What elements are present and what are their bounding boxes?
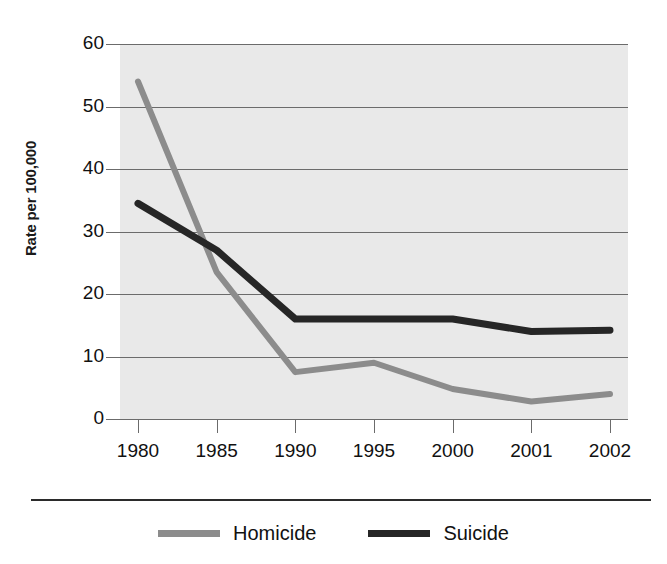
x-tick-mark-1995: [374, 420, 375, 433]
gridline-y-50: [120, 107, 628, 108]
y-tick-mark-30: [106, 232, 120, 233]
gridline-y-20: [120, 294, 628, 295]
y-tick-mark-0: [106, 419, 120, 420]
y-tick-label-50: 50: [60, 95, 104, 117]
x-tick-mark-2002: [610, 420, 611, 433]
x-tick-label-2002: 2002: [575, 440, 645, 462]
gridline-y-30: [120, 232, 628, 233]
legend-label-homicide: Homicide: [233, 522, 316, 545]
y-tick-mark-10: [106, 357, 120, 358]
gridline-y-60: [120, 44, 628, 45]
x-tick-label-2001: 2001: [496, 440, 566, 462]
y-tick-mark-20: [106, 294, 120, 295]
x-tick-mark-2001: [531, 420, 532, 433]
chart-legend: Homicide Suicide: [0, 522, 667, 545]
chart-figure: Rate per 100,000 0102030405060 198019851…: [0, 0, 667, 564]
legend-item-suicide[interactable]: Suicide: [368, 522, 509, 545]
plot-area: [120, 44, 628, 419]
y-axis-title: Rate per 100,000: [22, 129, 39, 269]
legend-item-homicide[interactable]: Homicide: [158, 522, 316, 545]
x-tick-label-1990: 1990: [260, 440, 330, 462]
x-tick-label-1995: 1995: [339, 440, 409, 462]
gridline-y-10: [120, 357, 628, 358]
legend-swatch-homicide: [158, 530, 220, 537]
x-tick-mark-1985: [217, 420, 218, 433]
x-tick-mark-2000: [453, 420, 454, 433]
y-tick-label-10: 10: [60, 345, 104, 367]
x-tick-mark-1980: [138, 420, 139, 433]
legend-separator: [31, 499, 651, 501]
y-tick-mark-40: [106, 169, 120, 170]
x-tick-label-1985: 1985: [182, 440, 252, 462]
y-tick-label-20: 20: [60, 282, 104, 304]
y-tick-label-30: 30: [60, 220, 104, 242]
y-tick-label-60: 60: [60, 32, 104, 54]
x-tick-label-2000: 2000: [418, 440, 488, 462]
y-tick-label-0: 0: [60, 407, 104, 429]
y-tick-mark-60: [106, 44, 120, 45]
legend-swatch-suicide: [368, 530, 430, 537]
y-tick-mark-50: [106, 107, 120, 108]
y-tick-label-40: 40: [60, 157, 104, 179]
x-tick-label-1980: 1980: [103, 440, 173, 462]
gridline-y-40: [120, 169, 628, 170]
legend-label-suicide: Suicide: [443, 522, 509, 545]
x-tick-mark-1990: [295, 420, 296, 433]
